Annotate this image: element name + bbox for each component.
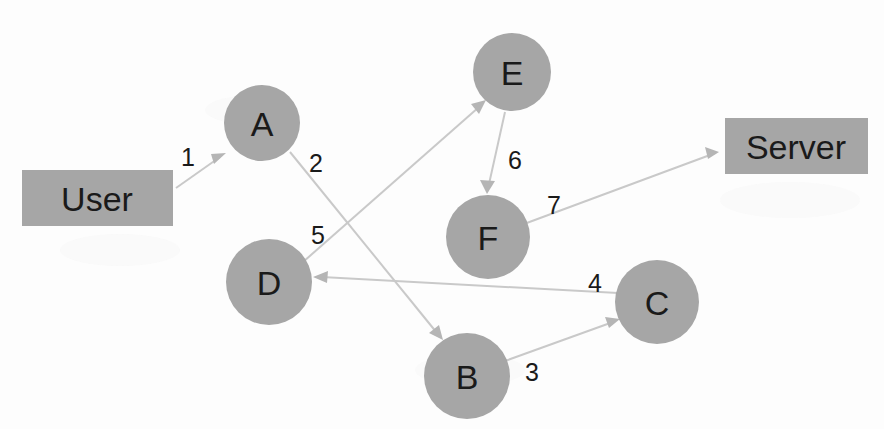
node-a-label: A [251,105,274,143]
node-e-label: E [501,54,524,92]
node-f[interactable]: F [446,195,530,279]
edge-c-to-d[interactable] [313,271,618,293]
node-f-label: F [478,219,499,257]
edge-b-to-c[interactable] [505,317,620,361]
diagram-canvas: User A B C D [0,0,884,429]
edge-label-6: 6 [508,146,522,174]
edge-6-arrowhead [480,180,495,194]
node-d-label: D [257,264,282,302]
edge-label-7: 7 [547,191,561,219]
node-server[interactable]: Server [725,118,868,174]
node-c[interactable]: C [615,260,699,344]
node-a[interactable]: A [224,85,300,161]
network-diagram: User A B C D [0,0,884,429]
node-server-label: Server [746,128,846,166]
nodes-layer: User A B C D [22,33,868,419]
edge-e-to-f[interactable] [480,112,505,194]
edge-label-1: 1 [181,143,195,171]
node-c-label: C [645,284,670,322]
edge-label-5: 5 [311,221,325,249]
edge-4-line [322,277,618,293]
node-b[interactable]: B [424,333,510,419]
edge-3-line [505,322,613,361]
edge-4-arrowhead [313,271,328,283]
edge-label-3: 3 [525,358,539,386]
node-user-label: User [61,180,133,218]
edge-7-arrowhead [705,147,719,159]
node-b-label: B [456,358,479,396]
edge-label-4: 4 [588,269,602,297]
edge-3-arrowhead [605,317,620,328]
node-d[interactable]: D [226,239,312,325]
edge-6-line [489,112,505,184]
node-e[interactable]: E [473,33,551,111]
edge-label-2: 2 [309,149,323,177]
node-user[interactable]: User [22,170,173,226]
